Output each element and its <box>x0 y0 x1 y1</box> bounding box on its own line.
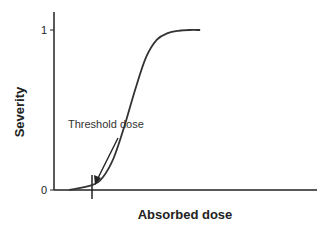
threshold-label: Threshold dose <box>68 118 144 130</box>
y-tick-label-1: 1 <box>41 24 47 36</box>
dose-response-chart: 1 0 Severity Absorbed dose Threshold dos… <box>0 0 332 232</box>
severity-curve <box>69 30 200 190</box>
x-axis-title: Absorbed dose <box>138 207 233 222</box>
threshold-arrow <box>97 138 118 180</box>
y-tick-label-0: 0 <box>41 184 47 196</box>
y-axis-title: Severity <box>12 86 27 137</box>
